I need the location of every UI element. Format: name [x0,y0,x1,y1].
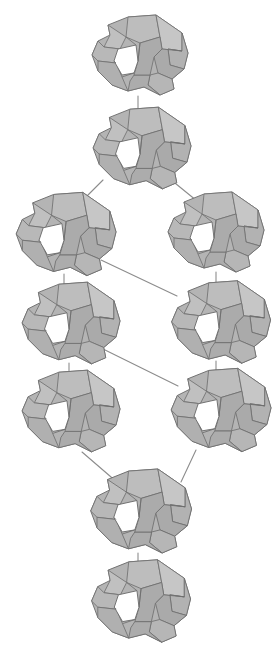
graph-node-n1 [93,107,191,189]
graph-edge [101,348,178,386]
graph-edge [101,260,177,296]
polyhedral-rock-icon [16,192,116,275]
graph-node-n4 [22,282,120,364]
graph-node-n9 [92,560,191,642]
polyhedral-rock-icon [168,192,264,272]
graph-node-n2 [16,192,116,275]
polyhedral-rock-icon [91,469,192,553]
polyhedral-rock-icon [172,281,271,363]
graph-node-n6 [22,370,120,452]
polyhedral-rock-icon [171,368,271,451]
graph-node-n7 [171,368,271,451]
graph-node-n8 [91,469,192,553]
polyhedral-rock-icon [92,15,188,95]
graph-node-n3 [168,192,264,272]
graph-node-n5 [172,281,271,363]
graph-node-n0 [92,15,188,95]
polyhedral-rock-icon [93,107,191,189]
polyhedral-rock-icon [92,560,191,642]
polyhedral-rock-icon [22,282,120,364]
polyhedral-rock-icon [22,370,120,452]
node-layer [16,15,271,642]
graph-svg [0,0,276,659]
diagram-canvas [0,0,276,659]
graph-edge [181,450,196,482]
